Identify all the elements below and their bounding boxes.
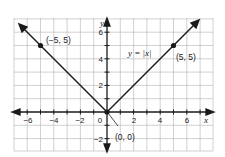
x-tick-label: 4 <box>158 116 163 125</box>
point-left-label: (−5, 5) <box>46 35 71 45</box>
point-right <box>171 43 176 48</box>
x-tick-label: 2 <box>132 116 137 125</box>
y-tick-label: −2 <box>94 135 104 144</box>
point-origin-label: (0, 0) <box>115 132 135 142</box>
origin-tick-label: 0 <box>98 116 103 125</box>
grid <box>14 18 213 151</box>
x-axis-label: x <box>203 115 208 125</box>
x-tick-label: −4 <box>49 116 59 125</box>
x-tick-label: −6 <box>23 116 33 125</box>
y-tick-label: 2 <box>99 81 104 90</box>
x-tick-label: 6 <box>185 116 190 125</box>
y-tick-label: 4 <box>99 55 104 64</box>
point-right-label: (5, 5) <box>176 52 196 62</box>
point-left <box>38 43 43 48</box>
y-axis-label: y <box>99 18 104 28</box>
x-tick-label: −2 <box>75 116 85 125</box>
x-axis <box>12 109 214 115</box>
function-label: y = |x| <box>127 48 152 58</box>
absolute-value-graph: −6 −4 −2 0 2 4 6 6 4 2 −2 y x (−5, 5) (0… <box>0 0 225 157</box>
origin-callout-line <box>108 113 118 126</box>
y-tick-label: 6 <box>99 28 104 37</box>
